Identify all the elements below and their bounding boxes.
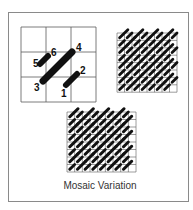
stitch-guide-grid: 123456 (21, 27, 96, 102)
stitch-number-label: 6 (51, 47, 57, 58)
stitch-5-6 (40, 56, 48, 64)
stitch-number-label: 2 (80, 65, 86, 76)
stitch-1-2 (66, 74, 77, 85)
figure-caption: Mosaic Variation (40, 180, 160, 191)
stitch-number-label: 1 (61, 88, 67, 99)
stitch-number-label: 4 (76, 42, 82, 53)
pattern-grid-large (67, 109, 136, 172)
stitch-number-label: 5 (33, 58, 39, 69)
pattern-grid-small (117, 30, 177, 93)
stitch-number-label: 3 (34, 82, 40, 93)
mosaic-stitch-diagram: 123456 (0, 0, 193, 210)
